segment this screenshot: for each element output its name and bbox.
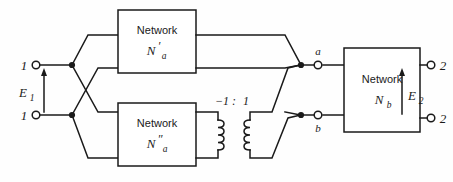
wire-xfmr-secondary-top-to-node-a <box>250 65 301 120</box>
terminal-a-circle[interactable] <box>314 61 322 69</box>
terminal-output-bottom-circle[interactable] <box>427 114 435 122</box>
network-a-double-prime-symbol-base: N <box>146 136 157 151</box>
network-a-prime-symbol-sub: a <box>162 51 167 61</box>
terminal-input-bottom-circle[interactable] <box>32 111 40 119</box>
e2-label-base: E <box>407 88 416 103</box>
e1-label-base: E <box>18 85 27 100</box>
terminal-input-top-label: 1 <box>21 58 28 73</box>
network-b-symbol-sub: b <box>387 100 392 110</box>
wire-na-prime-out2-to-node-a <box>196 65 301 68</box>
transformer-ratio-right: 1 <box>243 94 249 108</box>
terminal-b-label: b <box>315 122 321 134</box>
network-a-prime-symbol-prime: ′ <box>158 39 161 53</box>
transformer-ratio-colon: : <box>232 94 236 108</box>
terminal-output-bottom-label: 2 <box>440 111 447 126</box>
terminal-output-top-label: 2 <box>440 58 447 73</box>
terminal-b-circle[interactable] <box>314 111 322 119</box>
terminal-output-top-circle[interactable] <box>427 61 435 69</box>
network-a-prime-symbol-base: N <box>146 43 157 58</box>
wire-bottom-junction-to-na-dprime-in2 <box>72 115 118 158</box>
junction-dot-input-bottom <box>69 112 75 118</box>
junction-dot-input-top <box>69 62 75 68</box>
terminal-a-label: a <box>315 45 321 57</box>
schematic-canvas: Network N ′ a Network N ″ a Network N b … <box>0 0 453 182</box>
terminal-input-bottom-label: 1 <box>21 108 28 123</box>
network-a-prime-word: Network <box>137 24 178 36</box>
wire-na-prime-out1-to-node-a <box>196 35 301 65</box>
junction-dot-node-b <box>298 112 304 118</box>
transformer-secondary-coil <box>244 120 250 150</box>
wire-na-dprime-out2-to-xfmr-primary-bottom <box>196 150 218 158</box>
transformer-ratio-left: −1 <box>215 94 229 108</box>
e1-arrow-head <box>41 68 47 76</box>
transformer-primary-coil <box>218 120 224 150</box>
wire-xfmr-secondary-bottom-to-node-b <box>250 115 301 158</box>
network-b-symbol-base: N <box>374 92 385 107</box>
e1-label-sub: 1 <box>30 93 35 103</box>
wire-na-dprime-out1-to-xfmr-primary-top <box>196 112 218 120</box>
junction-dot-node-a <box>298 62 304 68</box>
e2-label-sub: 2 <box>419 96 424 106</box>
wire-top-junction-to-na-prime-in1 <box>72 35 118 65</box>
circuit-diagram: Network N ′ a Network N ″ a Network N b … <box>0 0 453 182</box>
network-a-double-prime-word: Network <box>137 117 178 129</box>
terminal-input-top-circle[interactable] <box>32 61 40 69</box>
network-a-double-prime-symbol-sub: a <box>163 144 168 154</box>
network-b-word: Network <box>362 73 403 85</box>
